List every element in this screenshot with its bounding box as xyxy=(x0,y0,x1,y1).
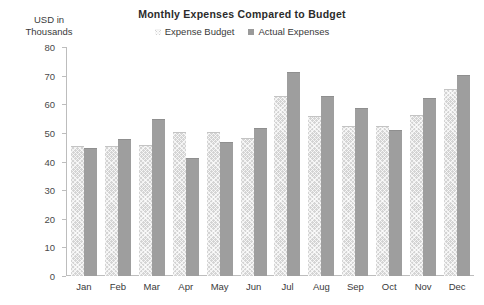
bar-budget-dec[interactable] xyxy=(444,89,457,276)
legend-label-actual: Actual Expenses xyxy=(258,26,329,37)
bar-budget-jan[interactable] xyxy=(71,146,84,276)
y-axis-tick-label: 80 xyxy=(44,42,55,53)
bar-groups xyxy=(67,47,474,276)
bar-group-mar xyxy=(135,47,169,276)
y-axis-tick-label: 70 xyxy=(44,70,55,81)
legend-item-actual-expenses[interactable]: Actual Expenses xyxy=(248,26,329,37)
bar-budget-oct[interactable] xyxy=(376,126,389,276)
bar-actual-jun[interactable] xyxy=(254,128,267,276)
legend-label-budget: Expense Budget xyxy=(165,26,235,37)
plot-area: 01020304050607080 xyxy=(66,47,474,276)
y-axis-tick-label: 50 xyxy=(44,127,55,138)
expenses-bar-chart: Monthly Expenses Compared to Budget Expe… xyxy=(0,0,484,305)
x-axis-label-nov: Nov xyxy=(406,281,440,292)
bar-actual-mar[interactable] xyxy=(152,119,165,276)
y-axis-tick: 40 xyxy=(62,162,66,163)
bar-actual-nov[interactable] xyxy=(423,98,436,276)
bar-budget-apr[interactable] xyxy=(173,132,186,276)
bar-actual-dec[interactable] xyxy=(457,75,470,276)
bar-group-oct xyxy=(372,47,406,276)
x-axis-label-may: May xyxy=(203,281,237,292)
bar-group-feb xyxy=(101,47,135,276)
bar-group-jul xyxy=(271,47,305,276)
bar-actual-jul[interactable] xyxy=(287,72,300,276)
y-axis-tick: 50 xyxy=(62,133,66,134)
bar-group-nov xyxy=(406,47,440,276)
x-axis-label-jul: Jul xyxy=(271,281,305,292)
bar-group-dec xyxy=(440,47,474,276)
x-axis-labels: JanFebMarAprMayJunJulAugSepOctNovDec xyxy=(67,281,474,292)
x-axis-label-feb: Feb xyxy=(101,281,135,292)
bar-actual-jan[interactable] xyxy=(84,148,97,276)
y-axis-tick-label: 10 xyxy=(44,242,55,253)
bar-budget-nov[interactable] xyxy=(410,115,423,276)
x-axis-label-mar: Mar xyxy=(135,281,169,292)
bar-budget-mar[interactable] xyxy=(139,145,152,276)
bar-budget-feb[interactable] xyxy=(105,146,118,276)
bar-group-jun xyxy=(237,47,271,276)
y-axis-tick-label: 30 xyxy=(44,185,55,196)
legend-swatch-icon-budget xyxy=(155,29,161,35)
y-axis-title: USD in Thousands xyxy=(12,14,86,38)
bar-actual-oct[interactable] xyxy=(389,130,402,276)
x-axis-label-jan: Jan xyxy=(67,281,101,292)
bar-group-apr xyxy=(169,47,203,276)
x-axis-label-oct: Oct xyxy=(372,281,406,292)
bar-actual-may[interactable] xyxy=(220,142,233,276)
x-axis-label-sep: Sep xyxy=(338,281,372,292)
bar-group-jan xyxy=(67,47,101,276)
x-axis-label-aug: Aug xyxy=(304,281,338,292)
bar-budget-may[interactable] xyxy=(207,132,220,276)
y-axis-tick: 80 xyxy=(62,47,66,48)
y-axis-tick-label: 40 xyxy=(44,156,55,167)
bar-budget-jul[interactable] xyxy=(274,96,287,276)
bar-actual-feb[interactable] xyxy=(118,139,131,276)
y-axis-tick: 20 xyxy=(62,219,66,220)
bar-actual-aug[interactable] xyxy=(321,96,334,276)
y-axis-tick: 30 xyxy=(62,190,66,191)
legend-item-expense-budget[interactable]: Expense Budget xyxy=(155,26,235,37)
x-axis-label-dec: Dec xyxy=(440,281,474,292)
bar-group-aug xyxy=(304,47,338,276)
x-axis-label-jun: Jun xyxy=(237,281,271,292)
bar-group-sep xyxy=(338,47,372,276)
y-axis-tick: 0 xyxy=(62,276,66,277)
bar-group-may xyxy=(203,47,237,276)
bar-actual-apr[interactable] xyxy=(186,158,199,276)
y-axis-tick-label: 20 xyxy=(44,213,55,224)
y-axis-tick: 60 xyxy=(62,104,66,105)
y-axis-tick: 10 xyxy=(62,247,66,248)
y-axis-tick-label: 60 xyxy=(44,99,55,110)
x-axis-label-apr: Apr xyxy=(169,281,203,292)
y-axis-tick: 70 xyxy=(62,76,66,77)
y-axis-title-line-2: Thousands xyxy=(12,26,86,38)
bar-budget-jun[interactable] xyxy=(241,138,254,276)
bar-budget-sep[interactable] xyxy=(342,126,355,276)
bar-budget-aug[interactable] xyxy=(308,116,321,276)
y-axis-title-line-1: USD in xyxy=(12,14,86,26)
legend-swatch-icon-actual xyxy=(248,29,254,35)
y-axis-tick-label: 0 xyxy=(50,271,55,282)
bar-actual-sep[interactable] xyxy=(355,108,368,276)
